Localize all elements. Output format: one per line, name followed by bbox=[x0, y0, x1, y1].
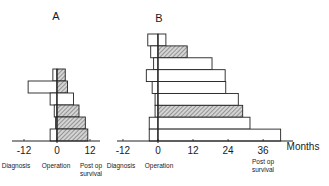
preop-bar bbox=[154, 58, 158, 70]
panel-b-operation-label: Operation bbox=[145, 162, 174, 170]
preop-bar bbox=[151, 46, 158, 58]
survival-bar-hatched bbox=[57, 105, 79, 117]
x-tick-label: -12 bbox=[17, 145, 32, 156]
panel-b-postop-label-1: Post op bbox=[252, 158, 274, 166]
months-label: Months bbox=[287, 141, 320, 152]
preop-bar bbox=[148, 34, 158, 46]
preop-bar bbox=[149, 129, 158, 141]
survival-bar-hatched bbox=[57, 81, 67, 93]
survival-bar-open bbox=[158, 117, 250, 129]
preop-bar bbox=[146, 70, 158, 82]
preop-bar bbox=[28, 81, 57, 93]
survival-bar-open bbox=[158, 82, 226, 94]
panel-a-postop-label-2: survival bbox=[80, 170, 103, 177]
panel-a-diagnosis-label: Diagnosis bbox=[2, 162, 31, 170]
survival-bar-open bbox=[158, 129, 281, 141]
survival-bar-hatched bbox=[158, 46, 187, 58]
preop-bar bbox=[50, 93, 57, 105]
panel-b-diagnosis-label: Diagnosis bbox=[107, 162, 136, 170]
x-tick-label: 12 bbox=[187, 145, 199, 156]
survival-bar-hatched bbox=[57, 117, 85, 129]
survival-bar-hatched bbox=[57, 129, 88, 141]
survival-bar-hatched bbox=[158, 105, 243, 117]
preop-bar bbox=[53, 69, 57, 81]
x-tick-label: 0 bbox=[155, 145, 161, 156]
panel-b: -120122436 bbox=[116, 34, 293, 156]
preop-bar bbox=[149, 117, 158, 129]
x-tick-label: 0 bbox=[54, 145, 60, 156]
survival-bar-hatched bbox=[57, 69, 65, 81]
preop-bar bbox=[152, 82, 158, 94]
survival-bar-open bbox=[57, 93, 74, 105]
panel-a-postop-label-1: Post op bbox=[80, 162, 102, 170]
panel-b-postop-label-2: survival bbox=[252, 166, 275, 173]
survival-bar-open bbox=[158, 34, 166, 46]
survival-chart: -12012 -120122436 A B Months Diagnosis O… bbox=[0, 0, 329, 186]
x-tick-label: 12 bbox=[84, 145, 96, 156]
x-tick-label: -12 bbox=[116, 145, 131, 156]
x-tick-label: 24 bbox=[223, 145, 235, 156]
survival-bar-open bbox=[158, 58, 212, 70]
x-tick-label: 36 bbox=[258, 145, 270, 156]
survival-bar-open bbox=[158, 70, 225, 82]
preop-bar bbox=[50, 129, 57, 141]
panel-a-operation-label: Operation bbox=[42, 162, 71, 170]
panel-b-title: B bbox=[155, 12, 162, 24]
survival-bar-open bbox=[158, 93, 238, 105]
panel-a-title: A bbox=[52, 10, 60, 22]
panel-a: -12012 bbox=[12, 69, 100, 156]
